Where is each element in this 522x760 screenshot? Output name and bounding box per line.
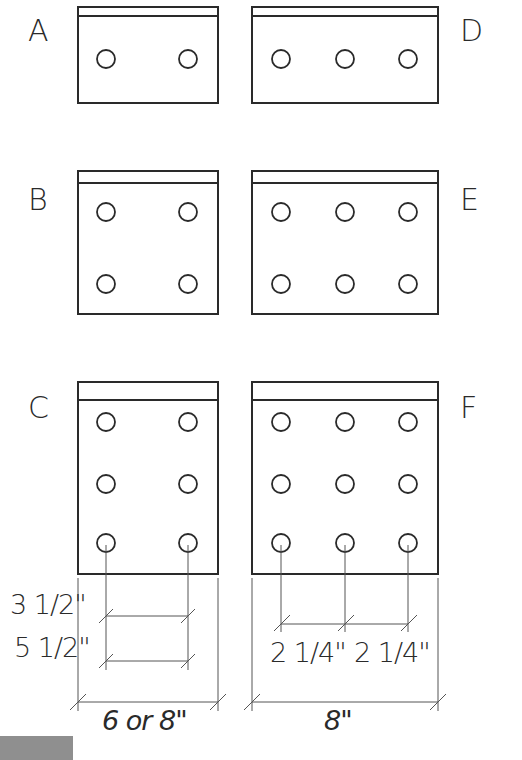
dimension-label-width-6-or-8: 6 or 8"	[102, 705, 187, 736]
bolt-hole	[399, 275, 417, 293]
plate-label-b: B	[28, 182, 48, 217]
plate-e	[252, 171, 438, 314]
bolt-hole	[399, 475, 417, 493]
bolt-hole	[97, 475, 115, 493]
plate-label-f: F	[460, 390, 477, 425]
bolt-hole	[179, 275, 197, 293]
bolt-hole	[336, 203, 354, 221]
plate-b	[78, 171, 218, 314]
bolt-hole	[336, 275, 354, 293]
plate-label-e: E	[460, 182, 479, 217]
bolt-hole	[97, 203, 115, 221]
dimension-label-spacing-2: 2 1/4"	[354, 637, 430, 668]
plate-a	[78, 7, 218, 103]
plate-label-c: C	[28, 390, 49, 425]
bolted-plate-diagram: A D B E C	[0, 0, 522, 760]
bolt-hole	[179, 203, 197, 221]
bolt-hole	[179, 475, 197, 493]
bolt-hole	[97, 413, 115, 431]
bolt-hole	[272, 275, 290, 293]
bolt-hole	[179, 413, 197, 431]
bolt-hole	[179, 50, 197, 68]
bolt-hole	[97, 275, 115, 293]
dimension-tick	[274, 615, 290, 631]
bolt-hole	[399, 203, 417, 221]
bolt-hole	[272, 50, 290, 68]
dimension-tick	[401, 615, 417, 631]
bolt-hole	[272, 413, 290, 431]
bolt-hole	[336, 413, 354, 431]
bolt-hole	[336, 475, 354, 493]
bolt-hole	[399, 413, 417, 431]
dimension-tick	[338, 615, 354, 631]
plate-label-d: D	[460, 13, 483, 48]
dimension-label-gauge-3-1-2: 3 1/2"	[10, 589, 86, 620]
dimension-label-width-8: 8"	[324, 705, 352, 736]
plate-d	[252, 7, 438, 103]
bolt-hole	[272, 475, 290, 493]
dimension-label-gauge-5-1-2: 5 1/2"	[14, 632, 90, 663]
bolt-hole	[272, 203, 290, 221]
plate-label-a: A	[28, 13, 49, 48]
corner-gray-block	[0, 736, 73, 760]
bolt-hole	[336, 50, 354, 68]
bolt-hole	[97, 50, 115, 68]
plate-b-outline	[78, 171, 218, 314]
bolt-hole	[399, 50, 417, 68]
dimension-label-spacing-1: 2 1/4"	[270, 637, 346, 668]
plate-c	[78, 382, 218, 574]
